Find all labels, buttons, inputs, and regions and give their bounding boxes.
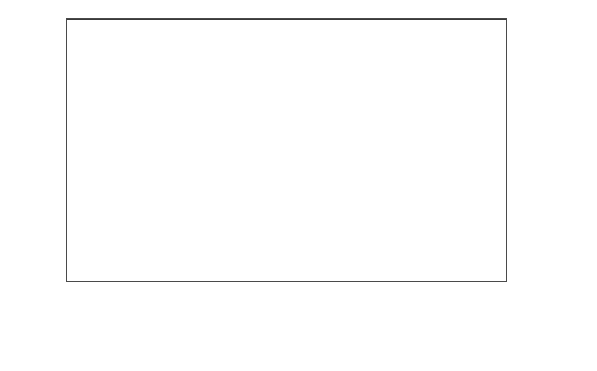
all-claims-average-line: [67, 19, 506, 20]
bar-series-container: [67, 19, 506, 281]
bar-chart: [0, 0, 597, 371]
y-axis-tick-labels: [10, 0, 62, 371]
plot-area: [66, 18, 507, 282]
